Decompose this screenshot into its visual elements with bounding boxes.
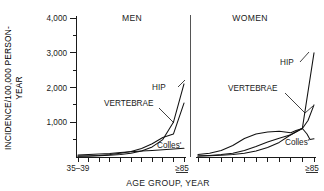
men-leader-vertebrae [159, 108, 174, 123]
men-x-label-first: 35–39 [67, 164, 90, 173]
y-tick-label-4000: 4,000 [47, 14, 68, 23]
y-tick-label-2000: 2,000 [47, 84, 68, 93]
panel-men-title: MEN [122, 13, 142, 23]
women-x-label-last: ≥85 [305, 164, 319, 173]
men-label-hip: HIP [152, 83, 166, 92]
women-label-vertebrae: VERTEBRAE [228, 84, 278, 93]
women-x-ticks [198, 157, 314, 162]
men-label-vertebrae: VERTEBRAE [104, 99, 154, 108]
women-leader-vertebrae [285, 93, 305, 113]
y-axis-title: INCIDENCE/100,000 PERSON- YEAR [3, 26, 24, 150]
y-tick-label-3000: 3,000 [47, 49, 68, 58]
y-axis-title-line1: INCIDENCE/100,000 PERSON- [3, 26, 13, 150]
x-axis-title: AGE GROUP, YEAR [126, 178, 209, 188]
y-axis-title-line2: YEAR [14, 76, 24, 100]
chart-canvas: INCIDENCE/100,000 PERSON- YEAR 4,000 3,0… [0, 0, 324, 191]
women-leader-hip [300, 52, 309, 62]
panel-women: WOMEN HIP [196, 13, 319, 173]
men-x-ticks [78, 157, 184, 162]
panel-women-title: WOMEN [232, 13, 267, 23]
y-axis: 4,000 3,000 2,000 1,000 [47, 14, 77, 157]
men-x-label-last: ≥85 [175, 164, 189, 173]
y-tick-label-1000: 1,000 [47, 118, 68, 127]
women-label-colles: Colles' [285, 138, 310, 147]
panel-men: MEN HI [67, 13, 190, 173]
fracture-incidence-figure: INCIDENCE/100,000 PERSON- YEAR 4,000 3,0… [0, 0, 324, 191]
women-label-hip: HIP [280, 58, 294, 67]
men-label-colles: Colles' [157, 141, 182, 150]
